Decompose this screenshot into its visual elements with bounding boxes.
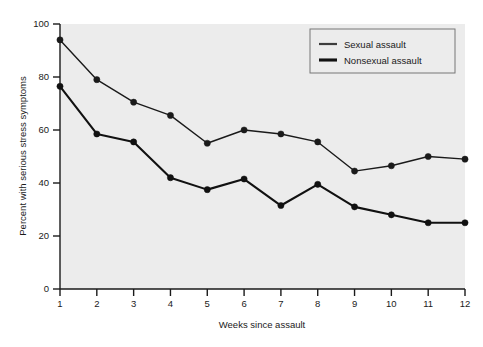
- data-point-nonsexual-assault: [131, 139, 137, 145]
- data-point-sexual-assault: [204, 140, 210, 146]
- data-point-sexual-assault: [425, 153, 431, 159]
- x-tick-label: 4: [168, 298, 173, 309]
- data-point-nonsexual-assault: [425, 220, 431, 226]
- y-axis-title: Percent with serious stress symptoms: [17, 76, 28, 236]
- y-tick-label: 80: [38, 71, 49, 82]
- data-point-sexual-assault: [278, 131, 284, 137]
- x-tick-label: 9: [352, 298, 357, 309]
- data-point-sexual-assault: [388, 163, 394, 169]
- data-point-nonsexual-assault: [388, 212, 394, 218]
- legend-label-nonsexual-assault: Nonsexual assault: [344, 55, 422, 66]
- data-point-nonsexual-assault: [241, 176, 247, 182]
- y-tick-label: 0: [44, 283, 49, 294]
- data-point-sexual-assault: [241, 127, 247, 133]
- x-axis-ticks: 123456789101112: [57, 289, 470, 309]
- x-tick-label: 6: [241, 298, 246, 309]
- y-tick-label: 100: [33, 18, 49, 29]
- data-point-sexual-assault: [94, 77, 100, 83]
- data-point-sexual-assault: [57, 37, 63, 43]
- legend-box: [310, 29, 455, 73]
- data-point-nonsexual-assault: [94, 131, 100, 137]
- data-point-sexual-assault: [131, 99, 137, 105]
- x-tick-label: 3: [131, 298, 136, 309]
- x-tick-label: 5: [205, 298, 210, 309]
- x-tick-label: 7: [278, 298, 283, 309]
- line-chart-figure: 020406080100 123456789101112 Weeks since…: [0, 0, 483, 347]
- legend: Sexual assault Nonsexual assault: [310, 29, 455, 73]
- x-tick-label: 2: [94, 298, 99, 309]
- legend-label-sexual-assault: Sexual assault: [344, 39, 406, 50]
- y-tick-label: 20: [38, 230, 49, 241]
- data-point-nonsexual-assault: [315, 181, 321, 187]
- data-point-sexual-assault: [315, 139, 321, 145]
- x-tick-label: 12: [460, 298, 471, 309]
- data-point-nonsexual-assault: [351, 204, 357, 210]
- data-point-nonsexual-assault: [462, 220, 468, 226]
- x-tick-label: 11: [423, 298, 433, 309]
- y-axis-ticks: 020406080100: [33, 18, 60, 294]
- x-tick-label: 1: [57, 298, 62, 309]
- y-tick-label: 60: [38, 124, 49, 135]
- data-point-sexual-assault: [462, 156, 468, 162]
- data-point-sexual-assault: [351, 168, 357, 174]
- data-point-nonsexual-assault: [167, 175, 173, 181]
- y-tick-label: 40: [38, 177, 49, 188]
- data-point-sexual-assault: [167, 112, 173, 118]
- x-axis-title: Weeks since assault: [219, 319, 306, 330]
- x-tick-label: 10: [386, 298, 397, 309]
- data-point-nonsexual-assault: [204, 187, 210, 193]
- data-point-nonsexual-assault: [57, 83, 63, 89]
- x-tick-label: 8: [315, 298, 320, 309]
- data-point-nonsexual-assault: [278, 202, 284, 208]
